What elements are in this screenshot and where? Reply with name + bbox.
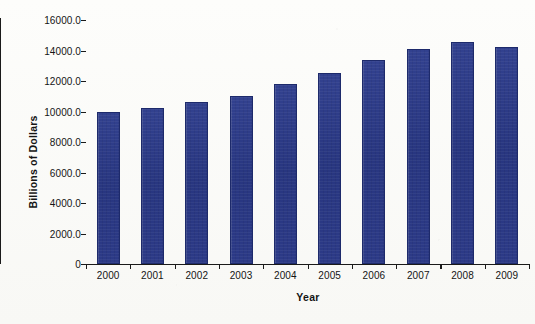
x-tick-mark: [263, 264, 264, 269]
y-tick-label: 2000.0: [50, 228, 81, 239]
x-tick-mark: [308, 264, 309, 269]
y-tick-label: 0: [75, 259, 81, 270]
x-tick-label-2000: 2000: [86, 270, 130, 281]
y-tick-label: 10000.0: [44, 106, 81, 117]
y-tick-label: 6000.0: [50, 167, 81, 178]
bar-2003: [230, 96, 253, 265]
x-tick-label-2009: 2009: [485, 270, 529, 281]
y-tick-label: 4000.0: [50, 198, 81, 209]
bar-2009: [495, 47, 518, 264]
x-tick-label-2002: 2002: [175, 270, 219, 281]
bar-2000: [97, 112, 120, 264]
y-tick-mark: [81, 20, 86, 21]
x-tick-mark: [86, 264, 87, 269]
x-tick-label-2005: 2005: [308, 270, 352, 281]
x-tick-mark: [175, 264, 176, 269]
bar-2007: [407, 49, 430, 264]
bar-2005: [318, 73, 341, 264]
bar-2001: [141, 108, 164, 264]
bar-2002: [185, 102, 208, 264]
x-axis-title: Year: [86, 291, 530, 303]
x-tick-mark: [219, 264, 220, 269]
x-tick-label-2006: 2006: [352, 270, 396, 281]
x-tick-mark: [352, 264, 353, 269]
y-tick-label: 16000.0: [44, 15, 81, 26]
bar-chart-figure: Billions of Dollars 02000.04000.06000.08…: [0, 0, 535, 324]
y-tick-label: 12000.0: [44, 76, 81, 87]
bar-2008: [451, 42, 474, 264]
y-axis-line: [0, 18, 1, 264]
y-tick-label: 8000.0: [50, 137, 81, 148]
x-tick-label-2003: 2003: [219, 270, 263, 281]
bar-2006: [362, 60, 385, 264]
y-tick-mark: [81, 173, 86, 174]
x-tick-label-2008: 2008: [440, 270, 484, 281]
bar-2004: [274, 84, 297, 264]
y-tick-mark: [81, 142, 86, 143]
y-tick-mark: [81, 112, 86, 113]
x-tick-mark: [485, 264, 486, 269]
y-tick-mark: [81, 203, 86, 204]
y-tick-mark: [81, 51, 86, 52]
x-tick-mark: [440, 264, 441, 269]
plot-area: 02000.04000.06000.08000.010000.012000.01…: [86, 20, 529, 264]
x-tick-mark: [130, 264, 131, 269]
x-tick-label-2004: 2004: [263, 270, 307, 281]
x-tick-label-2007: 2007: [396, 270, 440, 281]
x-tick-label-2001: 2001: [130, 270, 174, 281]
y-tick-label: 14000.0: [44, 45, 81, 56]
y-tick-mark: [81, 234, 86, 235]
x-tick-mark: [396, 264, 397, 269]
y-tick-mark: [81, 81, 86, 82]
x-tick-mark: [529, 264, 530, 269]
